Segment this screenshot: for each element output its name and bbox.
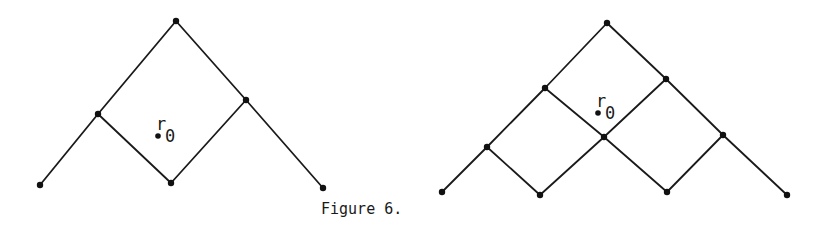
edge [246,100,323,188]
vertex-node [542,85,548,91]
vertex-node [173,18,179,24]
r0-point [595,110,601,116]
edge [487,147,540,195]
r0-subscript: 0 [605,103,615,123]
edge [723,135,787,195]
vertex-node [604,20,610,26]
edge [545,23,607,88]
vertex-node [95,111,101,117]
figure-6-diagram: r0 r0 [0,0,817,229]
vertex-node [168,180,174,186]
edge [667,135,723,192]
edge [607,23,666,79]
vertex-node [664,189,670,195]
edge [98,21,176,114]
vertex-node [601,134,607,140]
vertex-node [243,97,249,103]
vertex-node [720,132,726,138]
vertex-node [439,189,445,195]
r0-point [155,133,161,139]
vertex-node [537,192,543,198]
edge [487,88,545,147]
vertex-node [663,76,669,82]
edge [442,147,487,192]
vertex-node [784,192,790,198]
edge [176,21,246,100]
vertex-node [484,144,490,150]
edge [540,137,604,195]
edge [666,79,723,135]
right-lattice: r0 [439,20,790,198]
edge [604,137,667,192]
edge [40,114,98,185]
vertex-node [37,182,43,188]
left-lattice: r0 [37,18,326,191]
figure-caption: Figure 6. [321,200,402,218]
r0-subscript: 0 [165,126,175,146]
vertex-node [320,185,326,191]
edge [171,100,246,183]
